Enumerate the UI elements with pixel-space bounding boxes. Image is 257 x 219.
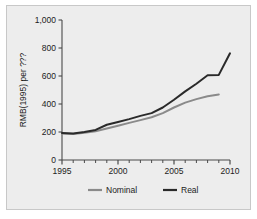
series-line-nominal [62, 94, 219, 134]
data-series-group [62, 53, 230, 134]
x-tick-label: 2005 [165, 166, 184, 176]
x-axis-ticks [62, 160, 230, 165]
x-tick-label: 2010 [221, 166, 240, 176]
chart-figure: 02004006008001,000 1995200020052010 RMB(… [0, 0, 257, 219]
y-tick-label: 0 [51, 155, 56, 165]
series-line-real [62, 53, 230, 133]
x-tick-label: 2000 [109, 166, 128, 176]
x-axis: 1995200020052010 [53, 160, 240, 176]
x-axis-tick-labels: 1995200020052010 [53, 166, 240, 176]
y-axis: 02004006008001,000 [35, 15, 62, 165]
legend-label-nominal: Nominal [106, 185, 137, 195]
line-chart: 02004006008001,000 1995200020052010 RMB(… [0, 0, 257, 219]
legend-label-real: Real [181, 185, 199, 195]
y-tick-label: 200 [42, 127, 56, 137]
y-axis-title: RMB(1995) per ??? [18, 52, 28, 127]
chart-legend: NominalReal [88, 185, 199, 195]
y-tick-label: 600 [42, 71, 56, 81]
y-tick-label: 800 [42, 43, 56, 53]
y-tick-label: 1,000 [35, 15, 57, 25]
x-tick-label: 1995 [53, 166, 72, 176]
y-axis-tick-labels: 02004006008001,000 [35, 15, 57, 165]
y-tick-label: 400 [42, 99, 56, 109]
